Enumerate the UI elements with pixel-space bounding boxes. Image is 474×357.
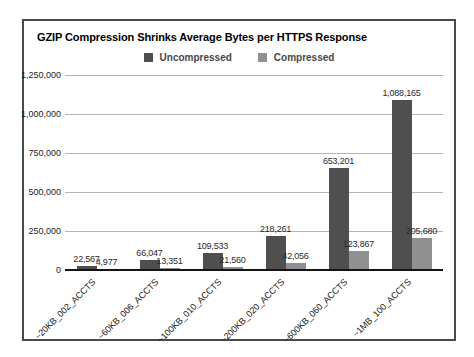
bar-uncompressed [329, 168, 349, 270]
bar-value-label: 205,680 [390, 226, 454, 236]
legend-swatch-uncompressed-icon [144, 53, 153, 62]
x-category-label-text: ~600KB_060_ACCTS [282, 277, 350, 345]
x-category-label-text: ~20KB_002_ACCTS [33, 277, 98, 342]
bar-value-label: 218,261 [244, 224, 308, 234]
y-tick-label: 750,000 [17, 148, 61, 158]
bar-value-label: 42,056 [264, 251, 328, 261]
bar-value-label: 123,867 [327, 239, 391, 249]
chart-image: GZIP Compression Shrinks Average Bytes p… [0, 0, 474, 357]
bar-value-label: 4,977 [75, 257, 139, 267]
y-tick-label: 1,250,000 [17, 70, 61, 80]
y-tick-label: 0 [17, 265, 61, 275]
legend: Uncompressed Compressed [24, 52, 454, 63]
legend-item-compressed: Compressed [258, 52, 335, 63]
x-category-label-text: ~100KB_010_ACCTS [156, 277, 224, 345]
gridline [65, 153, 443, 154]
legend-swatch-compressed-icon [258, 53, 267, 62]
bar-value-label: 1,088,165 [370, 88, 434, 98]
bar-value-label: 13,351 [138, 256, 202, 266]
x-category-label-text: ~200KB_020_ACCTS [219, 277, 287, 345]
bar-value-label: 653,201 [307, 156, 371, 166]
legend-label-uncompressed: Uncompressed [160, 52, 232, 63]
y-tick-label: 1,000,000 [17, 109, 61, 119]
bar-compressed [349, 251, 369, 270]
x-axis-line [65, 269, 443, 271]
bar-value-label: 109,533 [181, 241, 245, 251]
gridline [65, 75, 443, 76]
gridline [65, 192, 443, 193]
legend-item-uncompressed: Uncompressed [144, 52, 232, 63]
chart-frame: GZIP Compression Shrinks Average Bytes p… [22, 19, 456, 341]
x-category-label-text: ~60KB_006_ACCTS [96, 277, 161, 342]
gridline [65, 114, 443, 115]
bar-value-label: 21,560 [201, 255, 265, 265]
y-tick-label: 500,000 [17, 187, 61, 197]
bar-compressed [412, 238, 432, 270]
legend-label-compressed: Compressed [274, 52, 335, 63]
bar-uncompressed [392, 100, 412, 270]
y-tick-label: 250,000 [17, 226, 61, 236]
x-category-label-text: ~1MB_100_ACCTS [350, 277, 412, 339]
chart-title: GZIP Compression Shrinks Average Bytes p… [37, 31, 367, 43]
plot-area: 0250,000500,000750,0001,000,0001,250,000… [65, 75, 443, 270]
